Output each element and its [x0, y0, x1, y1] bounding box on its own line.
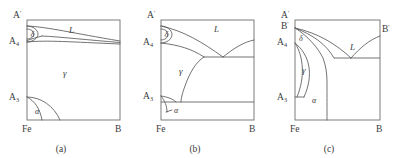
panel-b-phase-l: L [213, 24, 219, 34]
panel-a-label-b: B [115, 124, 121, 134]
panel-b-axes-frame [161, 20, 254, 120]
panel-c-label-a3: A3 [277, 92, 287, 103]
panel-a-phase-delta: δ [31, 30, 35, 39]
panel-c-axes-frame [295, 20, 380, 120]
panel-a-label-a4: A4 [9, 36, 19, 47]
panel-a-label-fe: Fe [22, 124, 32, 134]
phase-diagram-panel-b: A' A4 A3 Fe B L γ α δ (b) [134, 0, 268, 158]
panel-b-caption: (b) [189, 144, 200, 155]
phase-diagram-figure: A' A4 A3 Fe B L γ α δ (a) [0, 0, 402, 158]
panel-a-label-a-prime: A' [13, 9, 21, 20]
panel-b-gamma-right-boundary [181, 57, 204, 102]
panel-c-phase-alpha: α [312, 96, 317, 105]
panel-c-caption: (c) [324, 144, 335, 155]
panel-c-label-a-prime: A' [281, 9, 289, 20]
panel-b-label-a3: A3 [143, 91, 153, 102]
panel-b-label-a-prime: A' [147, 9, 155, 20]
panel-b-label-b: B [249, 124, 255, 134]
panel-c-liquidus-left [295, 28, 351, 58]
panel-b-phase-delta: δ [165, 30, 169, 39]
panel-c-label-b-prime-left: B' [281, 20, 289, 31]
panel-b-label-fe: Fe [156, 124, 166, 134]
panel-c-phase-delta: δ [299, 34, 303, 43]
panel-a-caption: (a) [56, 144, 67, 155]
panel-a-axes-frame [27, 20, 120, 120]
panel-b-label-a4: A4 [143, 37, 153, 48]
panel-c-liquidus-right [351, 36, 380, 58]
panel-a-phase-gamma: γ [63, 68, 67, 78]
panel-a-label-a3: A3 [9, 92, 19, 103]
panel-b-alpha-boundary [161, 96, 167, 112]
panel-c-phase-gamma: γ [302, 65, 306, 75]
panel-b-phase-gamma: γ [179, 66, 183, 76]
panel-b-phase-alpha: α [174, 106, 179, 115]
panel-c-label-b: B [376, 124, 382, 134]
panel-c-phase-l: L [349, 42, 355, 52]
panel-c-label-a4: A4 [277, 37, 287, 48]
phase-diagram-panel-a: A' A4 A3 Fe B L γ α δ (a) [0, 0, 134, 158]
panel-c-label-fe: Fe [290, 124, 300, 134]
panel-b-solidus [161, 43, 204, 57]
phase-diagram-panel-c: A' B' A4 A3 Fe B B' δ L γ α (c) [268, 0, 402, 158]
panel-b-liquidus-right [223, 40, 254, 57]
panel-c-label-b-prime-right: B' [382, 23, 390, 34]
panel-c-solidus [295, 28, 334, 58]
panel-a-phase-l: L [68, 25, 74, 35]
